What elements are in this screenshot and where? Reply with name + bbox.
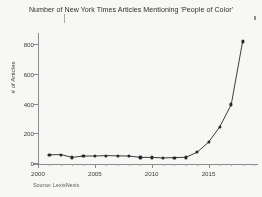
y-tick-label: 600	[8, 71, 34, 78]
y-axis-line	[38, 33, 39, 164]
y-tick-mark	[34, 74, 38, 75]
x-tick-minor	[83, 164, 84, 166]
x-tick-minor	[72, 164, 73, 166]
x-tick-minor	[197, 164, 198, 166]
data-point-marker	[161, 156, 164, 159]
data-point-marker	[150, 156, 153, 159]
y-tick-label: 200	[8, 130, 34, 137]
y-tick-label: 400	[8, 101, 34, 108]
x-tick-minor	[49, 164, 50, 166]
x-tick-minor	[61, 164, 62, 166]
x-tick-minor	[163, 164, 164, 166]
data-point-marker	[184, 156, 187, 159]
x-tick-minor	[106, 164, 107, 166]
chart-title: Number of New York Times Articles Mentio…	[6, 6, 256, 14]
data-point-marker	[48, 153, 51, 156]
x-tick-minor	[231, 164, 232, 166]
data-point-marker	[105, 154, 108, 157]
y-tick-label: 0	[8, 160, 34, 167]
y-tick-label: 800	[8, 41, 34, 48]
x-axis-line	[33, 164, 258, 165]
x-tick-mark	[152, 164, 153, 168]
x-tick-minor	[129, 164, 130, 166]
x-tick-label: 2000	[31, 170, 45, 177]
data-point-marker	[82, 154, 85, 157]
scan-artifact-smudge	[254, 16, 256, 20]
x-tick-minor	[118, 164, 119, 166]
data-point-marker	[196, 151, 199, 154]
y-tick-mark	[34, 133, 38, 134]
source-note: Source: LexisNexis	[33, 182, 79, 188]
scan-artifact-mark	[64, 14, 65, 23]
x-tick-label: 2010	[145, 170, 159, 177]
series-polyline	[0, 0, 262, 197]
x-tick-label: 2005	[88, 170, 102, 177]
y-tick-mark	[34, 104, 38, 105]
x-tick-minor	[254, 164, 255, 166]
data-point-marker	[127, 154, 130, 157]
x-tick-minor	[140, 164, 141, 166]
x-tick-minor	[186, 164, 187, 166]
y-tick-mark	[34, 44, 38, 45]
data-point-marker	[173, 156, 176, 159]
chart-figure: Number of New York Times Articles Mentio…	[0, 0, 262, 197]
x-tick-mark	[38, 164, 39, 168]
x-tick-label: 2015	[202, 170, 216, 177]
data-point-marker	[218, 125, 221, 128]
data-point-marker	[71, 156, 74, 159]
x-tick-minor	[243, 164, 244, 166]
data-point-marker	[93, 154, 96, 157]
data-point-marker	[241, 40, 244, 43]
x-tick-minor	[174, 164, 175, 166]
data-point-marker	[207, 141, 210, 144]
data-point-marker	[139, 156, 142, 159]
x-tick-mark	[209, 164, 210, 168]
data-point-marker	[230, 103, 233, 106]
x-tick-minor	[220, 164, 221, 166]
data-point-marker	[59, 153, 62, 156]
x-tick-mark	[95, 164, 96, 168]
data-point-marker	[116, 154, 119, 157]
